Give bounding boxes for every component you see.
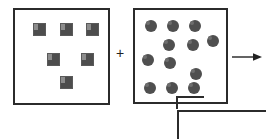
square-shape (47, 53, 60, 66)
square-shape (60, 23, 73, 36)
circle-shape (190, 68, 202, 80)
circle-shape (144, 82, 156, 94)
square-set-box[interactable] (13, 8, 110, 105)
right-arrow-icon (232, 49, 263, 61)
result-box-stub-top (176, 96, 204, 98)
circle-shape (142, 54, 154, 66)
circle-shape (187, 39, 199, 51)
plus-operator-icon: + (113, 44, 127, 62)
circle-shape (166, 82, 178, 94)
circle-shape (188, 82, 200, 94)
circle-shape (145, 20, 157, 32)
circle-shape (189, 20, 201, 32)
square-shape (60, 76, 73, 89)
square-shape (81, 53, 94, 66)
circle-shape (163, 39, 175, 51)
circle-set-box[interactable] (133, 8, 228, 104)
circle-shape (207, 35, 219, 47)
square-shape (86, 23, 99, 36)
diagram-canvas: + (0, 0, 266, 139)
circle-shape (164, 57, 176, 69)
result-box-partial[interactable] (177, 110, 266, 139)
square-shape (33, 23, 46, 36)
circle-shape (167, 20, 179, 32)
result-box-stub-left (176, 96, 178, 109)
